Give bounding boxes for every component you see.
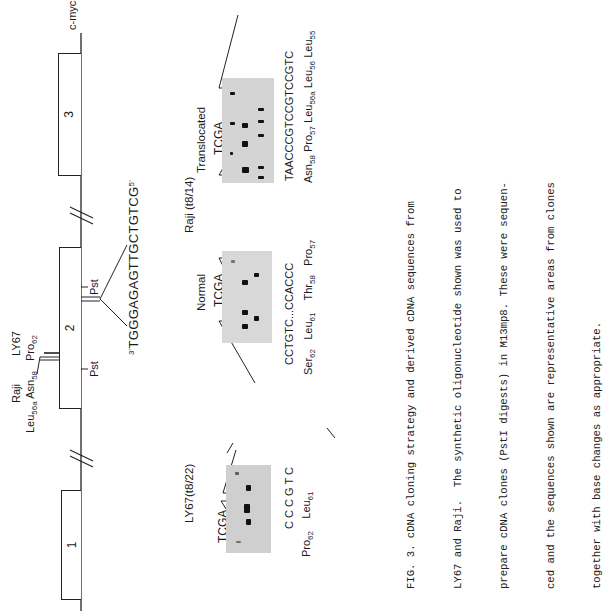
caption-line: FIG. 3. cDNA cloning strategy and derive… <box>404 182 420 589</box>
translocated-sequence: TAACCCGTCCGTCCGTC <box>283 51 295 181</box>
exon-3: 3 <box>58 53 81 176</box>
ly67-annotations: Pro62 Leu61 <box>300 491 315 557</box>
exon-2-number: 2 <box>63 325 77 332</box>
gene-label: c-myc <box>66 1 78 30</box>
translocated-gel <box>222 78 274 183</box>
caption-line: ced and the sequences shown are represen… <box>544 182 560 589</box>
pst-site-1: Pst <box>88 361 100 377</box>
caption-line: LY67 and Raji. The synthetic oligonucleo… <box>451 182 467 589</box>
ly67-label: LY67 <box>10 331 22 356</box>
oligo-5prime: 5' <box>127 180 136 187</box>
normal-panel-title: Normal <box>195 274 207 311</box>
pst-site-2: Pst <box>88 279 100 295</box>
caption-line: prepare cDNA clones (PstI digests) in M1… <box>497 182 513 589</box>
ly67-gel <box>226 465 271 553</box>
translocated-annotations: Asn58 Pro57 Leu56a Leu56 Leu55 <box>302 31 317 183</box>
ly67-sequence: C C C G T C <box>283 467 296 529</box>
exon-2: 2 <box>59 247 81 409</box>
raji-sites: Leu56a Asn58 <box>24 371 39 433</box>
exon-3-number: 3 <box>62 111 76 118</box>
raji-group-title: Raji (t8/14) <box>183 177 195 233</box>
translocated-panel-title: Translocated <box>195 107 207 173</box>
normal-gel <box>222 251 272 343</box>
ly67-sites: Pro62 <box>24 335 39 361</box>
normal-sequence: CCTGTC...CCACCC <box>283 263 295 365</box>
figure-caption: FIG. 3. cDNA cloning strategy and derive… <box>373 182 607 589</box>
exon-1: 1 <box>61 490 81 600</box>
oligo-3prime: 3' <box>127 348 136 355</box>
raji-label: Raji <box>10 384 22 403</box>
normal-annotations: Ser62 Leu61 Thr58 Pro57 <box>302 240 317 375</box>
caption-line: together with base changes as appropriat… <box>590 182 606 589</box>
exon-1-number: 1 <box>65 542 79 549</box>
oligonucleotide: 3'TGGGAGAGTTGCTGTCG5' <box>126 180 141 355</box>
oligo-sequence: TGGGAGAGTTGCTGTCG <box>126 187 141 349</box>
ly67-panel-title: LY67(t8/22) <box>183 464 195 523</box>
